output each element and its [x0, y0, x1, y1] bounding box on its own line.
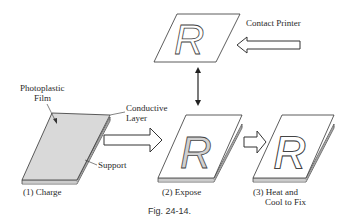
step-2-expose-plate: R — [158, 115, 242, 182]
arrow-step2-to-step3 — [244, 131, 266, 153]
step-3-label-2: Cool to Fix — [265, 197, 307, 207]
step-3-label: (3) Heat and — [253, 187, 298, 197]
contact-printer-mask: R — [154, 14, 240, 63]
mask-letter: R — [174, 16, 204, 63]
exposed-letter: R — [180, 128, 212, 177]
photoplastic-film-label: Photoplastic — [20, 83, 65, 93]
figure-caption: Fig. 24-14. — [148, 206, 191, 216]
contact-printer-label: Contact Printer — [246, 18, 301, 28]
step-3-fixed-plate: R R — [253, 115, 334, 182]
arrow-step1-to-step2 — [104, 128, 162, 152]
figure-diagram: R Contact Printer Photoplastic Film Cond… — [0, 0, 351, 219]
support-label: Support — [98, 160, 127, 170]
step-1-label: (1) Charge — [23, 187, 62, 197]
step-1-film-plate — [22, 113, 110, 184]
conductive-layer-label: Conductive — [126, 103, 168, 113]
fixed-letter-inner: R — [274, 128, 306, 177]
photoplastic-film-label-2: Film — [34, 93, 51, 103]
contact-printer-arrow — [237, 37, 300, 53]
step-2-label: (2) Expose — [162, 187, 201, 197]
double-arrow-icon — [195, 67, 201, 106]
conductive-layer-label-2: Layer — [126, 113, 147, 123]
